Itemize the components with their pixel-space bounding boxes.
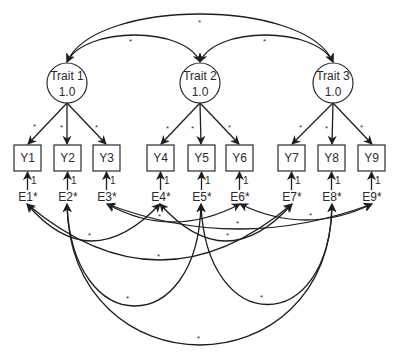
loading-label-y7: * [299, 123, 302, 132]
error-paths: 1 1 1 1 1 1 1 1 1 [28, 172, 382, 190]
trait1-variance: 1.0 [59, 85, 76, 99]
indicator-y4: Y4 [153, 151, 168, 165]
error-e1: E1* [18, 190, 38, 204]
loading-label-y5: * [191, 124, 194, 133]
loadings: * * * * * * * * * [28, 103, 372, 144]
corr-label-e3-e9: * [236, 219, 239, 228]
error-e2: E2* [58, 190, 78, 204]
error-e6: E6* [230, 190, 250, 204]
trait3-name: Trait 3 [316, 69, 350, 83]
corr-label-e5-e8: * [260, 293, 263, 302]
corr-e1-e4 [27, 204, 160, 241]
trait3-variance: 1.0 [325, 85, 342, 99]
corr-label-t2-t3: * [263, 37, 266, 46]
corr-e5-e8 [201, 204, 332, 305]
indicator-y9: Y9 [364, 151, 379, 165]
indicator-y1: Y1 [20, 151, 35, 165]
loading-label-y6: * [228, 123, 231, 132]
corr-label-e1-e7: * [157, 252, 160, 261]
errors: E1* E2* E3* E4* E5* E6* E7* E8* E9* [18, 190, 382, 204]
corr-label-e2-e8: * [197, 334, 200, 343]
error-correlations: * * * * * * * * * [27, 204, 372, 345]
error-path-label-2: 1 [71, 175, 77, 186]
error-e5: E5* [192, 190, 212, 204]
error-e3: E3* [97, 190, 117, 204]
error-path-label-4: 1 [164, 175, 170, 186]
corr-label-t1-t3: * [198, 18, 201, 27]
loading-label-y4: * [166, 124, 169, 133]
indicator-y5: Y5 [194, 151, 209, 165]
error-path-label-6: 1 [243, 175, 249, 186]
error-e9: E9* [362, 190, 382, 204]
indicator-y8: Y8 [324, 151, 339, 165]
error-path-label-1: 1 [31, 175, 37, 186]
trait1-name: Trait 1 [50, 69, 84, 83]
indicator-y3: Y3 [99, 151, 114, 165]
corr-label-e6-e9: * [309, 211, 312, 220]
factor-correlations: * * * [67, 14, 333, 62]
error-path-label-3: 1 [110, 175, 116, 186]
error-e7: E7* [282, 190, 302, 204]
latent-trait1: Trait 1 1.0 [47, 63, 87, 103]
error-e8: E8* [322, 190, 342, 204]
loading-label-y8: * [325, 124, 328, 133]
corr-e6-e9 [240, 204, 372, 220]
corr-label-t1-t2: * [129, 37, 132, 46]
corr-e3-e6 [107, 204, 240, 222]
indicators: Y1 Y2 Y3 Y4 Y5 Y6 Y7 Y8 Y9 [14, 145, 385, 171]
indicator-y6: Y6 [232, 151, 247, 165]
trait2-variance: 1.0 [192, 85, 209, 99]
corr-e2-e5 [67, 204, 201, 306]
error-path-label-5: 1 [205, 175, 211, 186]
indicator-y2: Y2 [60, 151, 75, 165]
corr-label-e4-e7: * [226, 231, 229, 240]
loading-label-y3: * [95, 123, 98, 132]
corr-label-e2-e5: * [126, 294, 129, 303]
loading-label-y2: * [60, 123, 63, 132]
corr-label-e3-e6: * [158, 212, 161, 221]
trait2-name: Trait 2 [183, 69, 217, 83]
error-path-label-9: 1 [375, 175, 381, 186]
indicator-y7: Y7 [284, 151, 299, 165]
sem-diagram: * * * Trait 1 1.0 Trait 2 1.0 Trait 3 1.… [0, 0, 394, 353]
loading-label-y1: * [33, 122, 36, 131]
error-e4: E4* [151, 190, 171, 204]
corr-label-e1-e4: * [88, 231, 91, 240]
error-path-label-7: 1 [295, 175, 301, 186]
error-path-label-8: 1 [335, 175, 341, 186]
latent-trait2: Trait 2 1.0 [180, 63, 220, 103]
loading-label-y9: * [360, 123, 363, 132]
latent-trait3: Trait 3 1.0 [313, 63, 353, 103]
